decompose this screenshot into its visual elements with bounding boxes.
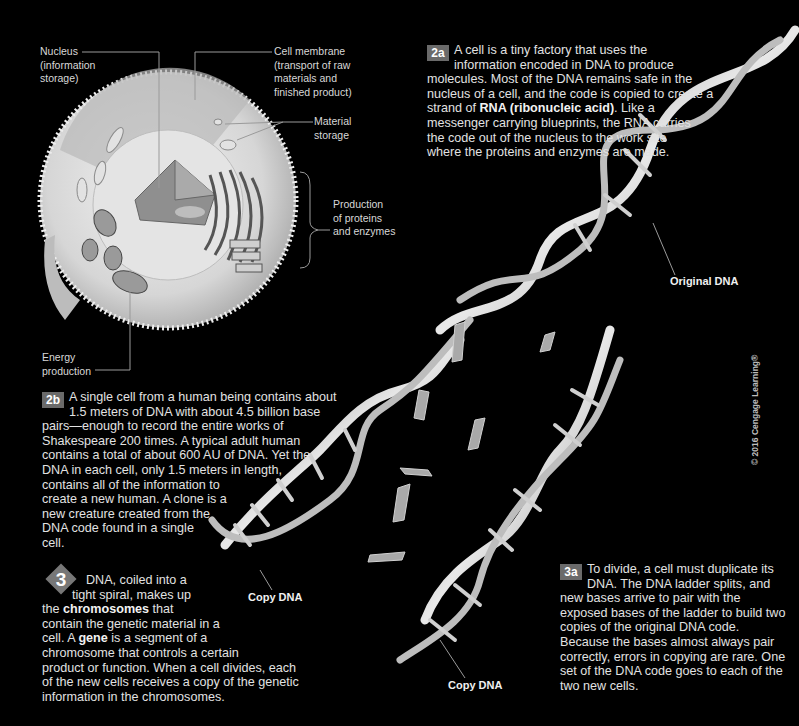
text-line: copies of the original DNA code. [560, 620, 799, 635]
text-span: . Like a [614, 101, 655, 115]
label-production: Production of proteins and enzymes [333, 198, 395, 239]
text-line: new bases arrive to pair with the [560, 591, 799, 606]
text-line: correctly, errors in copying are rare. O… [560, 650, 799, 665]
label-line: production [42, 365, 91, 379]
text-line: 1.5 meters of DNA with about 4.5 billion… [42, 405, 342, 420]
term-chromosomes: chromosomes [63, 602, 149, 616]
text-line: DNA in each cell, only 1.5 meters in len… [42, 463, 342, 478]
text-line: A single cell from a human being contain… [42, 390, 342, 405]
label-line: finished product) [274, 86, 352, 100]
label-nucleus: Nucleus (information storage) [40, 45, 95, 86]
text-line: cell. A gene is a segment of a [42, 631, 332, 646]
label-line: storage) [40, 72, 95, 86]
label-material-storage: Material storage [314, 115, 351, 142]
text-line: information encoded in DNA to produce [427, 58, 767, 73]
text-line: contains all of the information to [42, 478, 342, 493]
text-line: the code out of the nucleus to the work … [427, 131, 767, 146]
text-span: cell. A [42, 631, 78, 645]
text-line: create a new human. A clone is a [42, 492, 342, 507]
free-nucleotides [368, 322, 555, 562]
text-span: is a segment of a [108, 631, 207, 645]
text-line: new creature created from the [42, 507, 342, 522]
label-line: materials and [274, 72, 352, 86]
label-line: storage [314, 129, 351, 143]
text-line: Shakespeare 200 times. A typical adult h… [42, 434, 342, 449]
text-line: information in the chromosomes. [42, 690, 332, 705]
text-line: DNA, coiled into a [42, 573, 332, 588]
label-line: Material [314, 115, 351, 129]
text-line: messenger carrying blueprints, the RNA c… [427, 116, 767, 131]
section-3a: 3a To divide, a cell must duplicate its … [560, 562, 799, 693]
badge-2a: 2a [427, 45, 449, 61]
text-line: set of the DNA code goes to each of the [560, 664, 799, 679]
copyright-notice: © 2016 Cengage Learning® [750, 355, 760, 465]
term-rna: RNA (ribonucleic acid) [480, 101, 615, 115]
text-line: strand of RNA (ribonucleic acid). Like a [427, 101, 767, 116]
text-line: contains a total of about 600 AU of DNA.… [42, 448, 342, 463]
text-line: where the proteins and enzymes are made. [427, 145, 767, 160]
label-original-dna: Original DNA [670, 275, 738, 287]
cell-illustration [40, 68, 296, 328]
label-line: and enzymes [333, 225, 395, 239]
text-line: the chromosomes that [42, 602, 332, 617]
text-line: nucleus of a cell, and the code is copie… [427, 87, 767, 102]
section-2b: 2b A single cell from a human being cont… [42, 390, 342, 551]
text-line: two new cells. [560, 679, 799, 694]
label-copy-dna-left: Copy DNA [248, 591, 302, 603]
label-line: Cell membrane [274, 45, 352, 59]
text-line: chromosome that controls a certain [42, 646, 332, 661]
text-line: molecules. Most of the DNA remains safe … [427, 72, 767, 87]
text-line: DNA. The DNA ladder splits, and [560, 577, 799, 592]
text-line: DNA code found in a single [42, 521, 342, 536]
text-span: strand of [427, 101, 480, 115]
text-line: exposed bases of the ladder to build two [560, 606, 799, 621]
text-line: Because the bases almost always pair [560, 635, 799, 650]
term-gene: gene [78, 631, 107, 645]
label-copy-dna-right: Copy DNA [448, 679, 502, 691]
text-line: cell. [42, 536, 342, 551]
label-line: Energy [42, 351, 91, 365]
text-line: To divide, a cell must duplicate its [560, 562, 799, 577]
label-line: (transport of raw [274, 59, 352, 73]
badge-2b: 2b [42, 392, 64, 408]
label-line: (information [40, 59, 95, 73]
text-line: contain the genetic material in a [42, 617, 332, 632]
badge-3a: 3a [560, 564, 582, 580]
text-line: of the new cells receives a copy of the … [42, 675, 332, 690]
label-cell-membrane: Cell membrane (transport of raw material… [274, 45, 352, 99]
label-line: Nucleus [40, 45, 95, 59]
label-energy-production: Energy production [42, 351, 91, 378]
text-span: the [42, 602, 63, 616]
section-2a: 2a A cell is a tiny factory that uses th… [427, 43, 767, 160]
label-line: Production [333, 198, 395, 212]
text-line: pairs—enough to record the entire works … [42, 419, 342, 434]
label-line: of proteins [333, 212, 395, 226]
text-span: that [149, 602, 174, 616]
text-line: product or function. When a cell divides… [42, 661, 332, 676]
text-line: A cell is a tiny factory that uses the [427, 43, 767, 58]
